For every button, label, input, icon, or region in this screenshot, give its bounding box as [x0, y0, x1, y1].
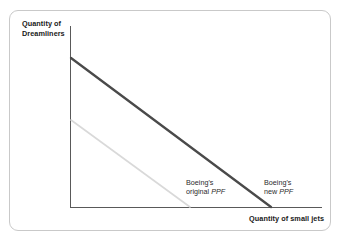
new-ppf-label: Boeing's new PPF [264, 178, 293, 197]
original-ppf-label: Boeing's original PPF [186, 178, 225, 197]
new-ppf-label-line2: new PPF [264, 187, 293, 196]
original-ppf-label-line1: Boeing's [186, 178, 225, 187]
new-ppf-label-prefix: new [264, 187, 279, 196]
new-ppf-line [71, 58, 271, 207]
new-ppf-label-abbrev: PPF [279, 187, 293, 196]
original-ppf-label-abbrev: PPF [211, 187, 225, 196]
y-axis-title: Quantity of Dreamliners [22, 19, 65, 38]
original-ppf-label-prefix: original [186, 187, 211, 196]
new-ppf-label-line1: Boeing's [264, 178, 293, 187]
original-ppf-label-line2: original PPF [186, 187, 225, 196]
x-axis-title: Quantity of small jets [249, 214, 324, 224]
ppf-figure: Quantity of Dreamliners Quantity of smal… [0, 0, 342, 242]
